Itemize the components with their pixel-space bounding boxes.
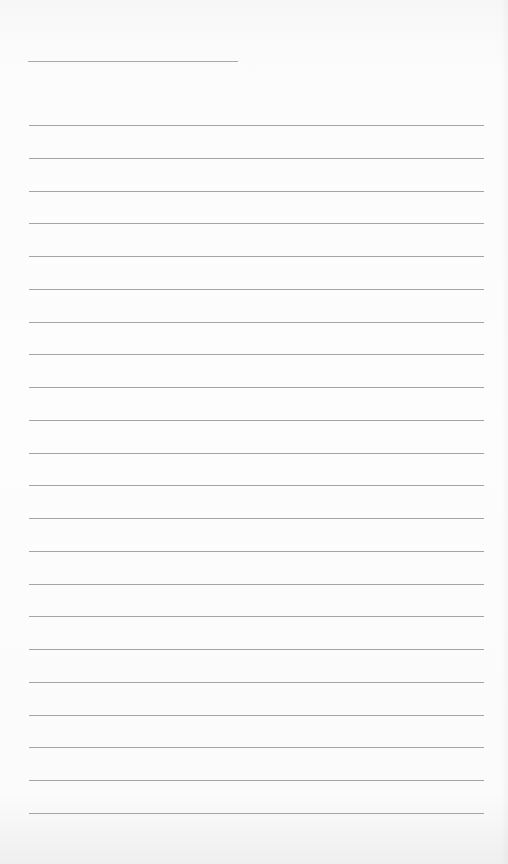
ruled-line bbox=[29, 158, 484, 159]
ruled-line bbox=[29, 518, 484, 519]
ruled-line bbox=[29, 256, 484, 257]
ruled-line bbox=[29, 584, 484, 585]
ruled-line bbox=[29, 485, 484, 486]
title-line bbox=[28, 61, 238, 62]
ruled-line bbox=[29, 125, 484, 126]
ruled-line bbox=[29, 747, 484, 748]
ruled-line bbox=[29, 649, 484, 650]
page-edge-shadow bbox=[500, 0, 508, 864]
ruled-line bbox=[29, 813, 484, 814]
lined-paper-page bbox=[0, 0, 508, 864]
ruled-line bbox=[29, 289, 484, 290]
ruled-line bbox=[29, 387, 484, 388]
ruled-line bbox=[29, 551, 484, 552]
ruled-line bbox=[29, 715, 484, 716]
ruled-line bbox=[29, 354, 484, 355]
ruled-line bbox=[29, 322, 484, 323]
ruled-line bbox=[29, 223, 484, 224]
ruled-line bbox=[29, 780, 484, 781]
ruled-line bbox=[29, 191, 484, 192]
ruled-line bbox=[29, 616, 484, 617]
ruled-line bbox=[29, 420, 484, 421]
ruled-line bbox=[29, 453, 484, 454]
ruled-line bbox=[29, 682, 484, 683]
